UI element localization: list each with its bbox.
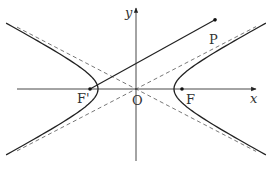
- right-focus-label: F: [186, 92, 195, 107]
- hyperbola-diagram: x y O F' F P: [0, 0, 267, 170]
- right-focus-point: [180, 87, 184, 91]
- segment-left-focus-to-p: [90, 20, 215, 89]
- point-p: [213, 18, 217, 22]
- x-axis-label: x: [250, 91, 258, 106]
- origin-label: O: [132, 93, 143, 108]
- left-focus-label: F': [77, 91, 90, 106]
- y-axis-label: y: [124, 5, 133, 20]
- point-p-label: P: [209, 32, 218, 47]
